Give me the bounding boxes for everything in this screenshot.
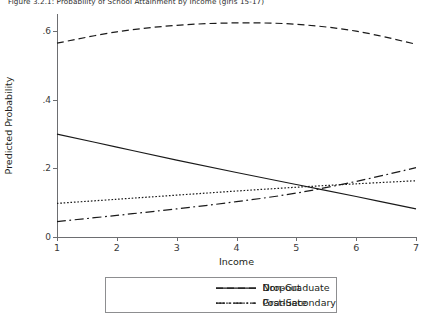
series-line-non-graduate bbox=[57, 23, 416, 44]
x-tick-label: 2 bbox=[114, 242, 120, 253]
legend-label: Post-Secondary bbox=[262, 297, 336, 308]
x-tick-label: 6 bbox=[353, 242, 359, 253]
legend-item-post-secondary[interactable]: Post-Secondary bbox=[209, 297, 336, 308]
series-line-post-secondary bbox=[57, 168, 416, 222]
legend-item-non-graduate[interactable]: Non-Graduate bbox=[209, 282, 336, 293]
x-tick-label: 4 bbox=[233, 242, 239, 253]
x-tick-label: 3 bbox=[174, 242, 180, 253]
y-tick-label: .2 bbox=[42, 163, 51, 173]
x-tick bbox=[296, 237, 297, 241]
y-tick-label: .6 bbox=[42, 26, 51, 36]
x-tick-label: 5 bbox=[293, 242, 299, 253]
x-tick-label: 1 bbox=[54, 242, 60, 253]
x-tick bbox=[416, 237, 417, 241]
legend: DropoutNon-GraduateGraduatePost-Secondar… bbox=[105, 277, 337, 313]
y-axis-label-text: Predicted Probability bbox=[4, 77, 15, 175]
x-tick bbox=[356, 237, 357, 241]
x-tick bbox=[57, 237, 58, 241]
series-lines bbox=[57, 14, 416, 237]
y-tick-label: 0 bbox=[45, 232, 51, 242]
figure-title: Figure 3.2.1: Probability of School Atta… bbox=[8, 0, 423, 6]
x-tick-label: 7 bbox=[413, 242, 419, 253]
x-axis-label: Income bbox=[57, 256, 416, 267]
series-line-graduate bbox=[57, 181, 416, 204]
y-axis-label: Predicted Probability bbox=[2, 14, 16, 237]
x-tick bbox=[237, 237, 238, 241]
legend-label: Non-Graduate bbox=[262, 282, 329, 293]
legend-swatch-dash-dot bbox=[215, 298, 257, 308]
legend-swatch-dashed bbox=[215, 283, 257, 293]
x-tick bbox=[117, 237, 118, 241]
series-line-dropout bbox=[57, 134, 416, 209]
y-tick-label: .4 bbox=[42, 95, 51, 105]
plot-area: 0.2.4.6 1234567 bbox=[57, 14, 416, 237]
chart-figure: Figure 3.2.1: Probability of School Atta… bbox=[0, 0, 427, 320]
x-tick bbox=[177, 237, 178, 241]
